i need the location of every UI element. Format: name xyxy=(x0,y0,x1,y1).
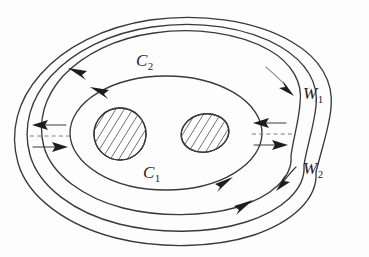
orientation-arrow-outer-bottom-right xyxy=(234,200,253,215)
label-w1-symbol: W xyxy=(303,84,317,103)
right-cut-group xyxy=(252,118,292,150)
right-hole-hatching xyxy=(156,82,246,182)
right-hole xyxy=(156,82,246,182)
label-w2-subscript: 2 xyxy=(317,168,323,180)
left-cut-group xyxy=(30,120,70,152)
label-c1-symbol: C xyxy=(143,163,154,182)
label-c2-subscript: 2 xyxy=(147,60,153,72)
outer-boundary-curve xyxy=(15,17,332,245)
label-c1: C1 xyxy=(143,164,160,184)
label-c2-symbol: C xyxy=(136,51,147,70)
w2-leader-arrow xyxy=(276,167,296,191)
label-w2-symbol: W xyxy=(303,159,317,178)
figure-canvas: C2 C1 W1 W2 xyxy=(0,0,369,257)
right-hole-outline xyxy=(178,109,233,156)
orientation-arrow-inner-bottom-right xyxy=(215,177,233,192)
orientation-arrow-outer-top-left xyxy=(68,68,87,80)
w2-leader-arrowhead xyxy=(276,175,290,191)
label-w1: W1 xyxy=(303,85,323,105)
label-c1-subscript: 1 xyxy=(154,172,160,184)
label-w1-subscript: 1 xyxy=(317,93,323,105)
label-c2: C2 xyxy=(136,52,153,72)
diagram-svg xyxy=(0,0,369,257)
label-w2: W2 xyxy=(303,160,323,180)
outermost-spiral xyxy=(15,17,332,245)
w1-leader-arrow xyxy=(266,67,294,96)
w1-leader-arrowhead xyxy=(279,81,294,96)
